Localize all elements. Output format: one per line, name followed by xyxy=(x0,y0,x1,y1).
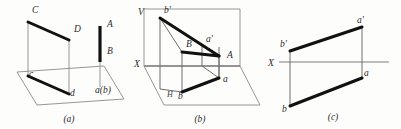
label-point-ab-coincident: a(b) xyxy=(95,85,111,96)
label-point-a-prime: a' xyxy=(357,15,365,25)
label-point-a: a xyxy=(364,68,369,78)
label-point-A: A xyxy=(226,50,233,60)
label-point-b: b xyxy=(282,104,287,114)
segment-CD xyxy=(28,22,69,40)
label-point-B: B xyxy=(186,39,192,49)
caption-panel-b: (b) xyxy=(194,114,205,125)
label-point-A: A xyxy=(106,19,113,29)
label-point-b-prime: b' xyxy=(280,39,288,49)
segment-top-view-ab xyxy=(290,78,362,106)
label-axis-X: X xyxy=(133,59,141,69)
label-point-a: a xyxy=(223,74,228,84)
receding-edge-b-to-bfold xyxy=(160,18,182,52)
label-point-B: B xyxy=(107,46,113,56)
label-point-b-prime: b' xyxy=(164,5,172,15)
caption-panel-a: (a) xyxy=(63,114,74,125)
label-point-b: b xyxy=(178,91,183,101)
panel-c-orthographic-views: a' b' X a b (c) xyxy=(265,0,401,129)
segment-cd xyxy=(28,76,69,94)
caption-panel-c: (c) xyxy=(328,112,339,123)
label-point-a-prime: a' xyxy=(206,34,214,44)
label-point-D: D xyxy=(73,24,81,34)
figure-root: C D A B c d a(b) (a) V b' xyxy=(0,0,401,129)
label-axis-X: X xyxy=(267,58,275,68)
segment-ab-top-view xyxy=(182,78,219,92)
panel-b-two-plane-system: V b' a' B A X a H b (b) xyxy=(130,0,266,129)
label-point-d: d xyxy=(70,88,75,98)
label-point-C: C xyxy=(32,5,39,15)
label-plane-H: H xyxy=(166,90,174,99)
receding-edge-bottom-a xyxy=(202,66,219,78)
segment-front-view-a-prime-b-prime xyxy=(290,27,362,51)
panel-a-pictorial-view: C D A B c d a(b) (a) xyxy=(0,0,134,129)
